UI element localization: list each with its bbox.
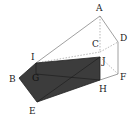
label-A: A bbox=[95, 3, 103, 13]
label-G: G bbox=[32, 73, 39, 83]
label-E: E bbox=[29, 106, 36, 116]
label-F: F bbox=[120, 72, 126, 82]
edge-AB bbox=[36, 16, 100, 63]
label-C: C bbox=[92, 39, 99, 49]
label-H: H bbox=[99, 84, 107, 94]
prism-diagram: A B C D E F G H I J bbox=[0, 0, 136, 122]
label-D: D bbox=[120, 33, 127, 43]
label-I: I bbox=[31, 52, 35, 62]
edge-CD bbox=[100, 42, 118, 52]
label-B: B bbox=[9, 74, 16, 84]
edge-AD bbox=[100, 16, 118, 42]
edge-HF bbox=[100, 74, 118, 80]
label-J: J bbox=[101, 56, 106, 66]
